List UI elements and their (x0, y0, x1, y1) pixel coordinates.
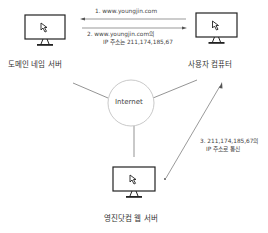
internet-label: Internet (115, 98, 143, 106)
link-user-internet (153, 80, 197, 98)
step2-message-line1: 2. www.youngjin.com의 (87, 30, 154, 38)
step3-message-line2: IP 주소로 통신 (206, 145, 240, 153)
step1-message: 1. www.youngjin.com (95, 7, 157, 15)
web-server-label: 영진닷컴 웹 서버 (104, 212, 158, 223)
step3-message-line1: 3. 211,174,185,67의 (200, 137, 258, 145)
web-server-monitor-icon (113, 167, 155, 198)
user-computer-label: 사용자 컴퓨터 (188, 58, 232, 69)
dns-server-label: 도메인 네임 서버 (8, 58, 62, 69)
link-dns-internet (73, 83, 108, 98)
arrow-step3 (166, 86, 220, 178)
dns-server-monitor-icon (25, 15, 65, 46)
step2-message-line2: IP 주소는 211,174,185,67 (103, 38, 173, 46)
user-computer-monitor-icon (196, 13, 237, 44)
